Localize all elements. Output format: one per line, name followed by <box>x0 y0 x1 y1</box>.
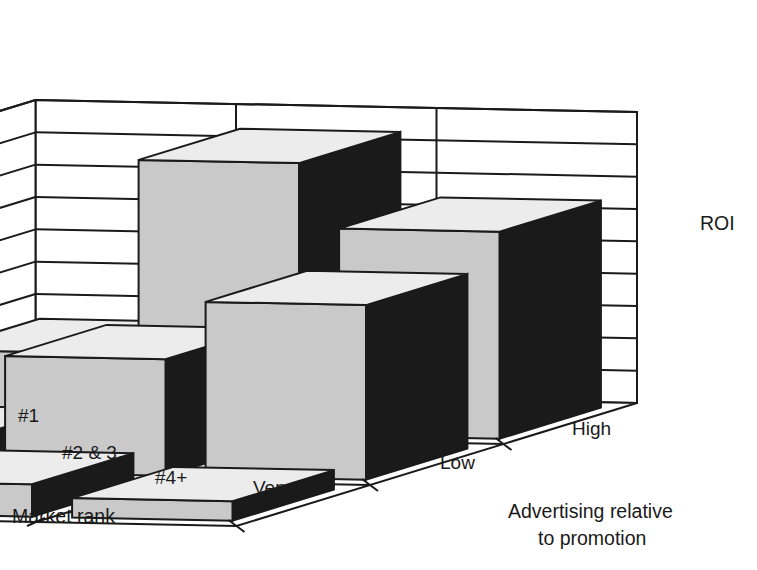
y-axis-title: Advertising relative to promotion <box>508 498 673 552</box>
x-axis-title: Market rank <box>12 505 115 528</box>
xtick-label-2: #4+ <box>155 467 187 489</box>
ytick-label-very-low: Very low <box>253 477 325 499</box>
z-axis-title: ROI <box>700 212 735 235</box>
ytick-label-high: High <box>572 418 611 440</box>
xtick-label-1: #2 & 3 <box>62 442 117 464</box>
xtick-label-0: #1 <box>18 405 39 427</box>
ytick-label-low: Low <box>440 452 475 474</box>
chart-container: #1 #2 & 3 #4+ Very low Low High Market r… <box>0 0 757 570</box>
bar-7 <box>206 271 468 480</box>
three-d-bar-chart <box>0 0 757 570</box>
